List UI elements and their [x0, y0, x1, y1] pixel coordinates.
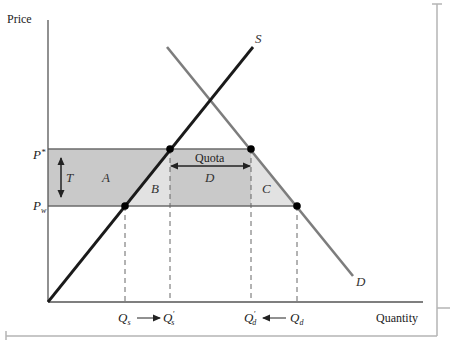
- tariff-quota-diagram: Price Quantity P* Pw S D T A B C D Quota…: [0, 0, 450, 340]
- p-w-label: Pw: [32, 198, 47, 215]
- qd-prime-label: Q′d: [244, 310, 257, 327]
- tariff-label: T: [66, 170, 74, 185]
- supply-label: S: [255, 31, 262, 46]
- qs-prime-label: Q′s: [163, 310, 174, 327]
- qd-label: Qd: [290, 310, 304, 327]
- quota-label: Quota: [195, 151, 225, 165]
- p-star-label: P*: [32, 147, 46, 162]
- shaded-regions: [48, 149, 297, 206]
- y-axis-label: Price: [7, 12, 32, 26]
- qs-label: Qs: [118, 310, 131, 327]
- region-d-label: D: [204, 170, 215, 185]
- region-b-label: B: [151, 181, 159, 196]
- demand-label: D: [355, 274, 366, 289]
- region-c-label: C: [262, 181, 271, 196]
- x-axis-label: Quantity: [376, 311, 418, 325]
- region-a-label: A: [101, 170, 110, 185]
